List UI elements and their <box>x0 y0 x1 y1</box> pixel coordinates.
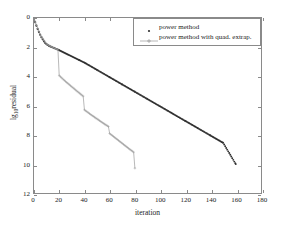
x-tick-label: 60 <box>97 196 121 204</box>
x-tick-label: 140 <box>199 196 223 204</box>
x-tick-mark <box>59 18 60 21</box>
x-tick-label: 80 <box>123 196 147 204</box>
x-tick-mark <box>136 190 137 193</box>
y-tick-label: 0 <box>8 13 30 21</box>
series-marker <box>225 147 227 149</box>
x-tick-mark <box>85 190 86 193</box>
x-tick-label: 120 <box>174 196 198 204</box>
x-tick-mark <box>263 18 264 21</box>
y-tick-mark <box>34 48 37 49</box>
y-tick-mark <box>34 77 37 78</box>
y-axis-label: lg10residual <box>9 58 18 148</box>
x-tick-label: 180 <box>250 196 274 204</box>
x-axis-label: iteration <box>33 208 262 217</box>
y-tick-mark <box>258 107 261 108</box>
series-marker <box>227 150 229 152</box>
series-marker <box>38 30 41 33</box>
x-tick-mark <box>85 18 86 21</box>
y-tick-label: 2 <box>8 43 30 51</box>
x-tick-mark <box>263 190 264 193</box>
y-tick-mark <box>34 107 37 108</box>
x-tick-mark <box>110 18 111 21</box>
x-tick-mark <box>59 190 60 193</box>
series-line <box>34 19 135 168</box>
legend-item-label: power method with quad. extrap. <box>159 32 252 42</box>
series-marker <box>224 145 226 147</box>
legend-item-label: power method <box>159 22 199 32</box>
series-marker <box>231 157 233 159</box>
y-tick-mark <box>34 166 37 167</box>
y-tick-mark <box>34 136 37 137</box>
y-tick-mark <box>34 18 37 19</box>
x-tick-label: 40 <box>72 196 96 204</box>
x-tick-mark <box>34 190 35 193</box>
y-tick-label: 12 <box>8 190 30 198</box>
y-tick-mark <box>258 77 261 78</box>
y-tick-label: 10 <box>8 161 30 169</box>
series-marker <box>223 144 225 146</box>
series-marker <box>226 149 228 151</box>
series-marker <box>235 163 237 165</box>
legend-line-plus-marker-icon <box>137 32 159 42</box>
series-marker <box>233 161 235 163</box>
x-tick-label: 20 <box>46 196 70 204</box>
series-2 <box>34 18 136 169</box>
y-tick-mark <box>258 166 261 167</box>
series-marker <box>230 156 232 158</box>
x-tick-mark <box>212 190 213 193</box>
x-tick-label: 160 <box>225 196 249 204</box>
y-tick-mark <box>258 48 261 49</box>
series-marker <box>232 159 234 161</box>
y-axis-label-base: lg <box>9 114 18 120</box>
x-tick-label: 100 <box>148 196 172 204</box>
convergence-chart-figure: 020406080100120140160180 024681012 itera… <box>0 0 286 233</box>
x-tick-mark <box>187 190 188 193</box>
series-marker <box>222 142 224 144</box>
series-marker <box>134 167 137 170</box>
legend-box: power methodpower method with quad. extr… <box>133 18 261 46</box>
x-tick-mark <box>238 190 239 193</box>
y-tick-mark <box>258 136 261 137</box>
series-marker <box>228 152 230 154</box>
legend-item[interactable]: power method <box>137 22 256 32</box>
x-tick-mark <box>110 190 111 193</box>
series-marker <box>229 154 231 156</box>
legend-dot-marker-icon <box>137 22 159 32</box>
x-tick-mark <box>161 190 162 193</box>
y-axis-label-subscript: 10 <box>12 109 18 115</box>
legend-item[interactable]: power method with quad. extrap. <box>137 32 256 42</box>
y-axis-label-rest: residual <box>9 85 18 109</box>
